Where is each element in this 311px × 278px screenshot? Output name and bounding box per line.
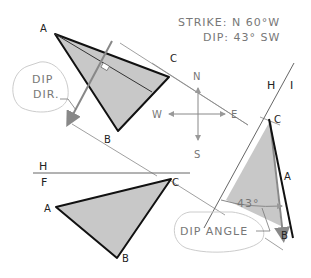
top-label-b: B [104,134,111,145]
compass-w: W [152,109,163,120]
auxiliary-view [221,119,293,238]
dip-dir-text-2: DIR. [33,88,59,101]
top-label-c: C [170,53,177,64]
fold-hf-f: F [41,176,47,189]
compass-s: S [194,149,201,160]
compass-n: N [193,71,201,82]
dip-angle-text: DIP ANGLE [180,225,248,238]
fold-hf-h: H [39,160,47,173]
angle-value: 43° [237,197,260,210]
compass-e: E [231,109,238,120]
front-label-b: B [122,253,129,264]
front-label-c: C [172,177,179,188]
dip-dir-callout [13,62,76,112]
aux-label-b: B [281,230,288,241]
fold-hi-i: I [290,79,293,92]
top-label-a: A [40,23,47,34]
front-view-triangle [56,179,171,258]
dip-dir-text-1: DIP [32,73,53,86]
aux-label-a: A [284,171,291,182]
strike-label: STRIKE: N 60°W [178,16,280,29]
aux-label-c: C [274,114,281,125]
front-label-a: A [44,203,51,214]
descriptive-geometry-diagram: STRIKE: N 60°W DIP: 43° SW A B C DIP DIR… [0,0,311,278]
dip-label: DIP: 43° SW [203,31,280,44]
fold-hi-h: H [267,79,275,92]
compass [169,88,225,140]
